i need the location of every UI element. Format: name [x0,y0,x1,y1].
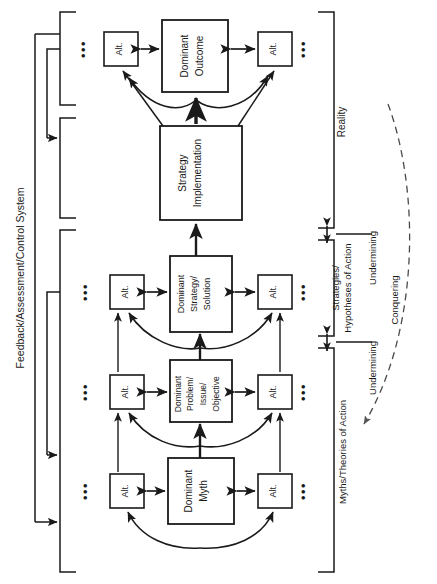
dominant-problem-line3: Issue/ [198,382,208,405]
right-bracket-reality [318,12,334,228]
undermining-upper-label: Undermining [367,231,378,285]
reality-label: Reality [336,107,347,138]
dominant-strategy-line3: Solution [202,278,212,311]
dominant-outcome-line1: Dominant [179,34,190,77]
strategy-implementation-line1: Strategy [177,154,188,191]
ellipsis-myth-left: ••• [78,482,93,500]
feedback-path-2 [47,49,60,138]
diagram-canvas: Feedback/Assessment/Control System Reali… [0,0,437,584]
ellipsis-outcome-right: ••• [296,40,311,58]
dominant-strategy-line2: Strategy/ [189,275,199,312]
diagram-svg: Feedback/Assessment/Control System Reali… [0,0,437,584]
ellipsis-strategy-left: ••• [78,283,93,301]
alt-outcome-left: Alt. [114,42,124,55]
dominant-myth-line2: Myth [198,480,209,502]
ellipsis-strategy-right: ••• [296,283,311,301]
dominant-strategy-line1: Dominant [176,274,186,313]
feedback-system-label: Feedback/Assessment/Control System [14,187,26,368]
alt-problem-left: Alt. [120,385,130,398]
arrow-impl-to-alt-right [238,71,274,126]
myths-label: Myths/Theories of Action [337,400,348,504]
undermining-lower-label: Undermining [367,341,378,395]
alt-myth-right: Alt. [268,484,278,497]
conquering-label: Conquering [389,275,400,324]
strategy-implementation-line2: Implementation [192,139,203,207]
strategies-label-line1: Strategies/ [330,265,341,311]
alt-strategy-right: Alt. [268,285,278,298]
right-bracket-myths [318,348,334,572]
dominant-problem-line4: Objective [211,376,221,412]
dominant-problem-line1: Dominant [173,375,183,412]
ellipsis-problem-left: ••• [78,383,93,401]
alt-strategy-left: Alt. [120,285,130,298]
ellipsis-outcome-left: ••• [76,40,91,58]
left-bracket-outcome [60,12,76,105]
strategies-label-line2: Hypotheses of Action [342,243,353,332]
ellipsis-myth-right: ••• [296,482,311,500]
left-bracket-strategy-impl [60,118,76,218]
ellipsis-problem-right: ••• [296,383,311,401]
dominant-myth-line1: Dominant [183,469,194,512]
dominant-outcome-line2: Outcome [194,35,205,76]
dominant-problem-line2: Problem/ [185,376,195,411]
alt-outcome-right: Alt. [268,42,278,55]
left-bracket-lower [60,230,76,572]
row-strategy [110,256,292,332]
alt-problem-right: Alt. [268,385,278,398]
alt-myth-left: Alt. [120,484,130,497]
feedback-path-3 [47,292,60,455]
